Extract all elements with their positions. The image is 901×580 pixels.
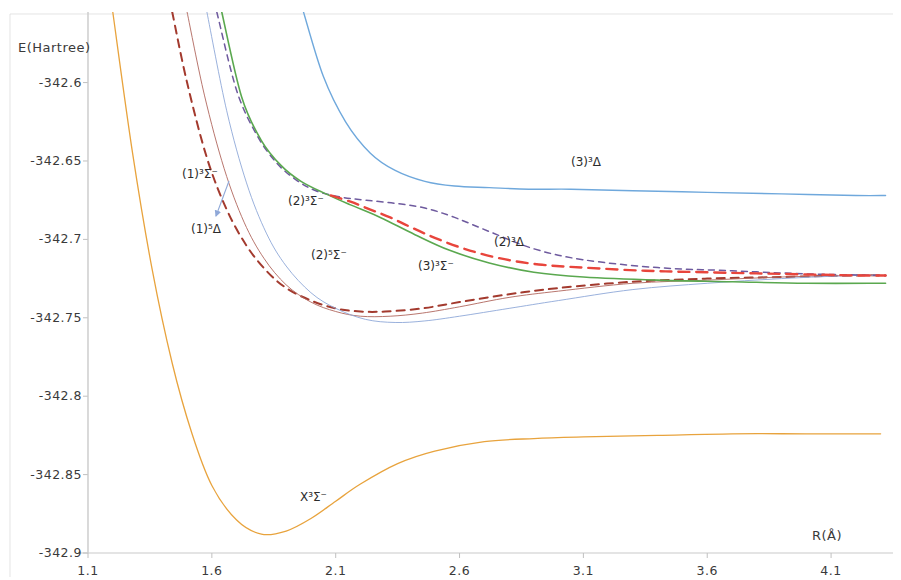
label-1-3sigma: (1)³Σ⁻ — [182, 167, 218, 181]
curve-1-5Delta — [187, 12, 885, 317]
chart-canvas — [0, 0, 901, 580]
x-axis-tick-label: 1.6 — [182, 563, 242, 578]
label-2-3sigma: (2)³Σ⁻ — [288, 194, 324, 208]
x-axis-tick-label: 2.1 — [306, 563, 366, 578]
y-axis-tick-label: -342.6 — [8, 75, 82, 90]
x-axis-tick-label: 4.1 — [801, 563, 861, 578]
potential-energy-curve-figure: E(Hartree) R(Å) -342.6-342.65-342.7-342.… — [0, 0, 901, 580]
label-1-5delta: (1)⁵Δ — [191, 222, 221, 236]
curve-X3Sigma- — [113, 12, 881, 535]
y-axis-tick-label: -342.9 — [8, 545, 82, 560]
curve-2-3Delta — [331, 195, 886, 275]
x-axis-label: R(Å) — [812, 528, 842, 543]
label-2-5sigma: (2)⁵Σ⁻ — [311, 248, 347, 262]
curve-2-5Sigma- — [207, 12, 886, 323]
label-2-3delta: (2)³Δ — [494, 235, 524, 249]
label-x-3sigma: X³Σ⁻ — [300, 490, 327, 504]
curve-1-3Sigma- — [172, 12, 885, 312]
x-axis-tick-label: 1.1 — [58, 563, 118, 578]
label-3-3delta: (3)³Δ — [571, 155, 601, 169]
y-axis-tick-label: -342.8 — [8, 388, 82, 403]
y-axis-tick-label: -342.85 — [8, 467, 82, 482]
curve-3-3Sigma- — [222, 12, 886, 283]
y-axis-tick-label: -342.7 — [8, 231, 82, 246]
curve-2-3Sigma- — [217, 12, 886, 275]
y-axis-tick-label: -342.75 — [8, 310, 82, 325]
label-3-3sigma: (3)³Σ⁻ — [418, 259, 454, 273]
x-axis-tick-label: 3.1 — [553, 563, 613, 578]
x-axis-tick-label: 3.6 — [677, 563, 737, 578]
leader-arrow-1-5delta — [216, 181, 229, 216]
x-axis-tick-label: 2.6 — [430, 563, 490, 578]
y-axis-label: E(Hartree) — [18, 40, 91, 55]
y-axis-tick-label: -342.65 — [8, 153, 82, 168]
